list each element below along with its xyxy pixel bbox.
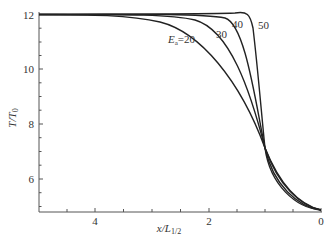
curve-label-20: Ea=20 — [167, 33, 196, 47]
y-tick-8: 8 — [29, 118, 35, 130]
curve-label-50: 50 — [258, 19, 270, 31]
curve-label-30: 30 — [216, 28, 228, 40]
y-axis-label: T/T0 — [6, 108, 20, 127]
chart: 12 10 8 6 4 2 0 T/T0 x/L1/2 Ea=20 30 40 … — [0, 0, 335, 238]
x-axis-label: x/L1/2 — [156, 222, 181, 236]
x-ticks — [67, 208, 321, 212]
y-tick-12: 12 — [23, 9, 34, 21]
y-tick-6: 6 — [29, 173, 35, 185]
y-tick-10: 10 — [23, 63, 35, 75]
x-tick-2: 2 — [206, 215, 212, 227]
x-tick-0: 0 — [318, 215, 324, 227]
curve-label-40: 40 — [232, 18, 244, 30]
x-tick-4: 4 — [92, 215, 98, 227]
y-ticks — [39, 15, 43, 207]
